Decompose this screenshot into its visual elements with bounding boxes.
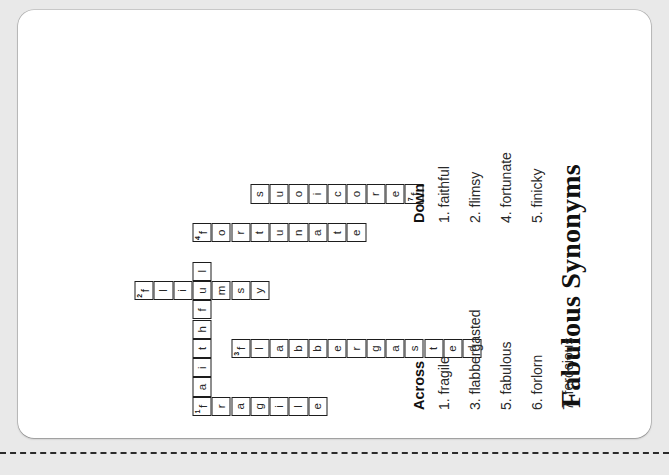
grid-cell[interactable]: i bbox=[308, 184, 327, 203]
clue-text: ferocious bbox=[559, 338, 575, 395]
grid-cell-letter: t bbox=[253, 224, 265, 241]
grid-cell-letter: o bbox=[215, 224, 227, 241]
grid-cell-letter: a bbox=[389, 340, 401, 357]
grid-cell[interactable]: o bbox=[211, 223, 230, 242]
clue-item: 3. flabbergasted bbox=[466, 310, 482, 410]
grid-cell[interactable]: n bbox=[288, 223, 307, 242]
across-clue-list: Across 1. fragile3. flabbergasted5. fabu… bbox=[410, 310, 590, 410]
grid-cell-letter: f bbox=[139, 282, 151, 299]
clue-item: 4. fortunate bbox=[497, 152, 513, 223]
clue-number: 4. bbox=[497, 211, 513, 223]
grid-cell-letter: l bbox=[253, 340, 265, 357]
grid-cell[interactable]: t bbox=[192, 339, 211, 358]
grid-cell[interactable]: a bbox=[231, 397, 250, 416]
grid-cell[interactable]: i bbox=[192, 358, 211, 377]
grid-cell-letter: f bbox=[197, 224, 209, 241]
across-items: 1. fragile3. flabbergasted5. fabulous6. … bbox=[435, 310, 575, 410]
clue-item: 1. faithful bbox=[435, 152, 451, 223]
grid-cell-letter: u bbox=[196, 282, 208, 299]
clue-item: 6. forlorn bbox=[528, 310, 544, 410]
grid-cell[interactable]: e bbox=[308, 397, 327, 416]
grid-cell[interactable]: t bbox=[250, 223, 269, 242]
grid-cell[interactable]: r bbox=[366, 184, 385, 203]
grid-cell[interactable]: t bbox=[327, 223, 346, 242]
grid-cell[interactable]: e bbox=[346, 223, 365, 242]
grid-cell-letter: c bbox=[331, 185, 343, 202]
grid-cell[interactable]: r bbox=[346, 339, 365, 358]
grid-cell[interactable]: l bbox=[153, 281, 172, 300]
clue-text: forlorn bbox=[528, 355, 544, 395]
grid-cell-letter: t bbox=[196, 340, 208, 357]
clue-text: flimsy bbox=[466, 172, 482, 208]
grid-cell[interactable]: 2f bbox=[134, 281, 153, 300]
grid-cell[interactable]: g bbox=[250, 397, 269, 416]
grid-cell-letter: f bbox=[236, 340, 248, 357]
grid-cell-letter: s bbox=[234, 282, 246, 299]
clue-text: fragile bbox=[435, 356, 451, 394]
clue-text: flabbergasted bbox=[466, 310, 482, 395]
grid-cell[interactable]: r bbox=[231, 223, 250, 242]
grid-cell[interactable]: l bbox=[192, 262, 211, 281]
grid-cell[interactable]: m bbox=[211, 281, 230, 300]
grid-cell-letter: o bbox=[292, 185, 304, 202]
grid-cell-letter: l bbox=[196, 263, 208, 280]
grid-cell[interactable]: c bbox=[327, 184, 346, 203]
grid-cell[interactable]: u bbox=[192, 281, 211, 300]
clue-text: finicky bbox=[528, 169, 544, 208]
grid-cell-letter: a bbox=[234, 398, 246, 415]
grid-cell[interactable]: s bbox=[231, 281, 250, 300]
grid-cell-letter: t bbox=[331, 224, 343, 241]
grid-cell-letter: l bbox=[292, 398, 304, 415]
grid-cell[interactable]: b bbox=[288, 339, 307, 358]
grid-cell-letter: a bbox=[273, 340, 284, 357]
grid-cell[interactable]: o bbox=[346, 184, 365, 203]
grid-cell[interactable]: s bbox=[250, 184, 269, 203]
clue-number: 1. bbox=[435, 398, 451, 410]
worksheet-stage: Fabulous Synonyms 1fragileaithful3flabbe… bbox=[18, 10, 651, 438]
grid-cell-letter: b bbox=[292, 340, 304, 357]
grid-cell[interactable]: 4f bbox=[192, 223, 211, 242]
grid-cell[interactable]: u bbox=[269, 184, 288, 203]
grid-cell[interactable]: e bbox=[385, 184, 404, 203]
clue-text: fabulous bbox=[497, 341, 513, 394]
grid-cell-letter: e bbox=[331, 340, 343, 357]
grid-cell[interactable]: h bbox=[192, 320, 211, 339]
grid-cell-letter: h bbox=[196, 321, 208, 338]
grid-cell[interactable]: u bbox=[269, 223, 288, 242]
clue-number: 5. bbox=[497, 398, 513, 410]
grid-cell-letter: m bbox=[215, 282, 227, 299]
grid-cell[interactable]: i bbox=[269, 397, 288, 416]
grid-cell-letter: e bbox=[350, 224, 362, 241]
grid-cell-letter: f bbox=[196, 301, 208, 318]
grid-cell[interactable]: o bbox=[288, 184, 307, 203]
grid-cell[interactable]: e bbox=[327, 339, 346, 358]
grid-cell[interactable]: a bbox=[192, 377, 211, 396]
grid-cell[interactable]: f bbox=[192, 300, 211, 319]
grid-cell-letter: s bbox=[253, 185, 265, 202]
grid-cell[interactable]: g bbox=[366, 339, 385, 358]
grid-cell-letter: o bbox=[350, 185, 362, 202]
grid-cell-letter: u bbox=[273, 185, 284, 202]
worksheet-page: Fabulous Synonyms 1fragileaithful3flabbe… bbox=[18, 10, 651, 438]
grid-cell[interactable]: 1f bbox=[192, 397, 211, 416]
grid-cell[interactable]: l bbox=[288, 397, 307, 416]
grid-cell[interactable]: r bbox=[211, 397, 230, 416]
grid-cell[interactable]: a bbox=[385, 339, 404, 358]
clue-item: 7. ferocious bbox=[559, 310, 575, 410]
grid-cell-letter: b bbox=[311, 340, 323, 357]
grid-cell[interactable]: i bbox=[173, 281, 192, 300]
grid-cell[interactable]: y bbox=[250, 281, 269, 300]
grid-cell-letter: r bbox=[369, 185, 381, 202]
grid-cell-letter: r bbox=[215, 398, 227, 415]
grid-cell[interactable]: a bbox=[269, 339, 288, 358]
grid-cell[interactable]: l bbox=[250, 339, 269, 358]
clue-item: 2. flimsy bbox=[466, 152, 482, 223]
grid-cell[interactable]: b bbox=[308, 339, 327, 358]
grid-cell-letter: l bbox=[157, 282, 169, 299]
grid-cell[interactable]: a bbox=[308, 223, 327, 242]
down-items: 1. faithful2. flimsy4. fortunate5. finic… bbox=[435, 152, 544, 223]
grid-cell[interactable]: 3f bbox=[231, 339, 250, 358]
grid-cell-letter: n bbox=[292, 224, 304, 241]
clue-text: fortunate bbox=[497, 152, 513, 207]
grid-cell-letter: y bbox=[253, 282, 265, 299]
